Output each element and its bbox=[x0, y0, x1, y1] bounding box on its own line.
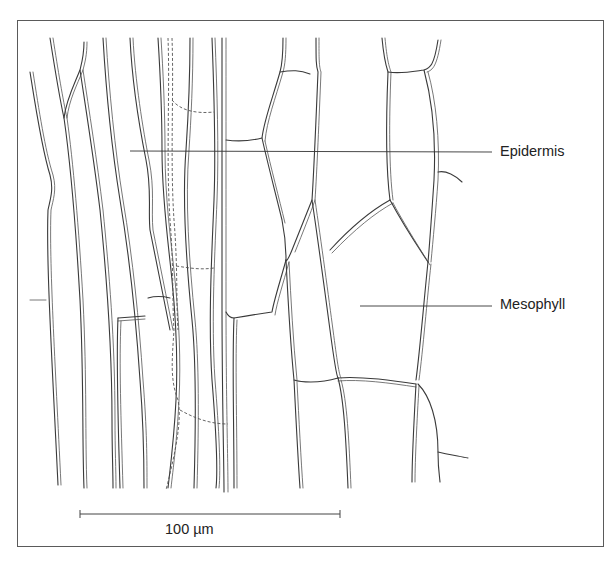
epidermis-leader-line bbox=[130, 151, 492, 152]
mesophyll-label: Mesophyll bbox=[500, 296, 565, 312]
cell-drawing bbox=[0, 0, 616, 570]
scale-bar bbox=[80, 510, 340, 518]
mesophyll-cells bbox=[226, 38, 468, 488]
epidermis-label: Epidermis bbox=[500, 143, 564, 159]
epidermis-cells bbox=[30, 38, 228, 492]
scale-bar-label: 100 µm bbox=[165, 521, 214, 537]
